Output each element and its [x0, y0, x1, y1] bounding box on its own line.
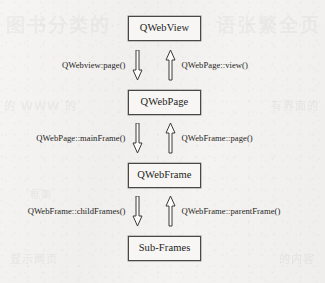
- edge-label-qwebpage-view: QWebPage::view(): [176, 61, 312, 70]
- class-relationship-diagram: QWebView QWebview:page() QWebPage::view(…: [0, 0, 325, 283]
- edge-group-qwebframe-subframes: QWebFrame::childFrames() QWebFrame::pare…: [0, 195, 325, 228]
- edge-label-qwebpage-mainframe: QWebPage::mainFrame(): [14, 134, 132, 143]
- node-label-subframes: Sub-Frames: [139, 243, 191, 254]
- node-box-qwebpage[interactable]: QWebPage: [128, 90, 201, 115]
- arrow-down-icon: [132, 123, 143, 154]
- arrow-down-icon: [132, 50, 143, 81]
- arrow-pair-1: [132, 50, 176, 81]
- node-box-subframes[interactable]: Sub-Frames: [128, 236, 201, 261]
- arrow-pair-3: [132, 196, 176, 227]
- edge-label-qwebframe-parentframe: QWebFrame::parentFrame(): [176, 207, 312, 216]
- edge-group-qwebpage-qwebframe: QWebPage::mainFrame() QWebFrame::page(): [0, 122, 325, 155]
- edge-label-qwebframe-page: QWebFrame::page(): [176, 134, 312, 143]
- arrow-up-icon: [165, 50, 176, 81]
- edge-label-qwebframe-childframes: QWebFrame::childFrames(): [14, 207, 132, 216]
- node-label-qwebframe: QWebFrame: [137, 170, 191, 181]
- arrow-up-icon: [165, 123, 176, 154]
- edge-group-qwebview-qwebpage: QWebview:page() QWebPage::view(): [0, 49, 325, 82]
- node-box-qwebview[interactable]: QWebView: [128, 16, 201, 41]
- arrow-pair-2: [132, 123, 176, 154]
- node-label-qwebview: QWebView: [140, 23, 189, 34]
- edge-label-qwebview-page: QWebview:page(): [14, 61, 132, 70]
- arrow-down-icon: [132, 196, 143, 227]
- node-label-qwebpage: QWebPage: [141, 97, 189, 108]
- node-box-qwebframe[interactable]: QWebFrame: [128, 163, 201, 188]
- arrow-up-icon: [165, 196, 176, 227]
